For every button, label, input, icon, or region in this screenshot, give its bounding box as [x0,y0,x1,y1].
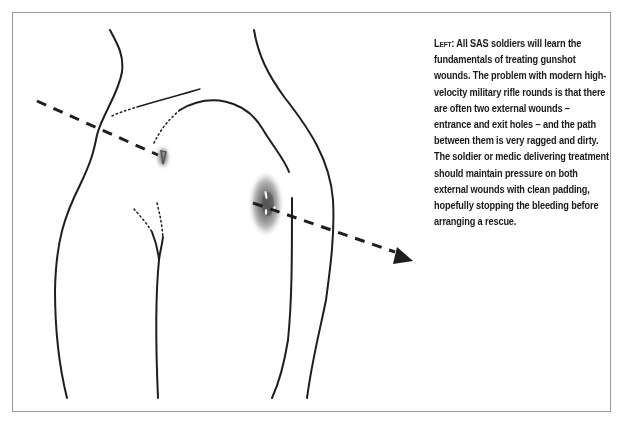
figure-caption: Left: All SAS soldiers will learn the fu… [434,36,609,230]
entry-wound [156,145,170,169]
buttock-curve [180,100,289,172]
inner-thigh-line [156,260,159,398]
crotch-fork-right [159,237,163,260]
bullet-path [37,101,413,264]
body-outline [55,30,333,398]
arrowhead-icon [393,247,413,264]
hidden-contours [112,107,180,237]
caption-text: All SAS soldiers will learn the fundamen… [434,38,609,227]
left-outer-contour [55,30,122,398]
caption-lead: Left: [434,38,454,49]
crotch-fork-left [152,232,159,260]
